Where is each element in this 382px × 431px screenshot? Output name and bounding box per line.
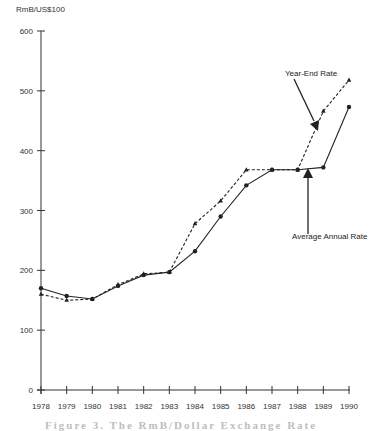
average-annual-rate-label: Average Annual Rate: [292, 232, 368, 241]
y-tick-label: 100: [20, 326, 34, 335]
year-end-rate-label: Year-End Rate: [285, 69, 338, 78]
y-tick-label: 500: [20, 87, 34, 96]
x-tick-label: 1980: [83, 402, 101, 411]
x-tick-label: 1990: [340, 402, 358, 411]
y-tick-label: 300: [20, 207, 34, 216]
x-tick-label: 1986: [237, 402, 255, 411]
x-tick-label: 1988: [289, 402, 307, 411]
data-point: [39, 286, 43, 290]
data-point-triangle: [39, 292, 44, 296]
y-tick-label: 600: [20, 27, 34, 36]
series-line: [41, 107, 349, 299]
data-point-triangle: [116, 282, 121, 286]
x-tick-label: 1985: [212, 402, 230, 411]
figure-caption: Figure 3. The RmB/Dollar Exchange Rate: [45, 419, 317, 431]
x-tick-label: 1983: [160, 402, 178, 411]
year-end-arrow: [294, 79, 314, 121]
data-point: [244, 183, 248, 187]
series-line: [41, 80, 349, 300]
annotations: Year-End Rate Average Annual Rate: [285, 69, 368, 241]
x-tick-label: 1981: [109, 402, 127, 411]
y-tick-label: 0: [29, 386, 34, 395]
x-tick-label: 1979: [58, 402, 76, 411]
y-axis-title: RmB/US$100: [16, 5, 65, 14]
y-tick-label: 200: [20, 266, 34, 275]
data-point: [64, 294, 68, 298]
x-tick-label: 1982: [135, 402, 153, 411]
x-tick-label: 1978: [32, 402, 50, 411]
year-end-arrowhead-icon: [310, 120, 319, 131]
data-series: [39, 77, 352, 301]
data-point: [347, 105, 351, 109]
data-point: [218, 214, 222, 218]
data-point: [321, 165, 325, 169]
x-tick-label: 1989: [314, 402, 332, 411]
data-point: [193, 249, 197, 253]
x-tick-label: 1984: [186, 402, 204, 411]
x-tick-label: 1987: [263, 402, 281, 411]
y-tick-label: 400: [20, 147, 34, 156]
data-point-triangle: [347, 77, 352, 81]
